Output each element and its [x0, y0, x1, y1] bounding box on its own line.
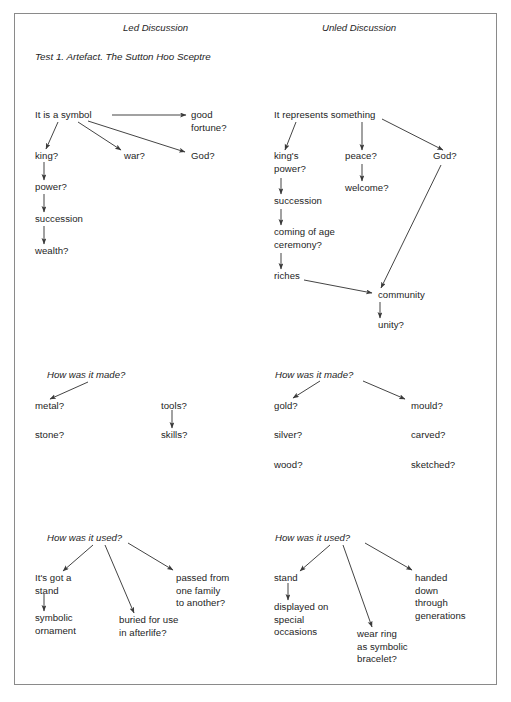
diagram-page: Led Discussion Unled Discussion Test 1. …: [0, 0, 511, 702]
node-power: power?: [35, 181, 67, 194]
node-skills: skills?: [161, 429, 187, 442]
node-king: king?: [35, 150, 58, 163]
node-handed-down-through-generations: handed down through generations: [415, 572, 466, 622]
node-kings-power: king's power?: [274, 150, 306, 175]
node-it-is-a-symbol: It is a symbol: [35, 109, 92, 122]
node-wear-ring-as-symbolic-bracelet: wear ring as symbolic bracelet?: [357, 628, 408, 666]
node-community: community: [378, 289, 425, 302]
column-header-led: Led Discussion: [123, 22, 188, 33]
node-mould: mould?: [411, 400, 443, 413]
node-it-represents-something: It represents something: [274, 109, 375, 122]
node-its-got-a-stand: It's got a stand: [35, 572, 71, 597]
node-succession-unled: succession: [274, 195, 322, 208]
node-wealth: wealth?: [35, 245, 68, 258]
node-unity: unity?: [378, 319, 404, 332]
node-displayed-on-special-occasions: displayed on special occasions: [274, 601, 328, 639]
node-riches: riches: [274, 270, 300, 283]
section-heading-used-led: How was it used?: [47, 532, 122, 543]
node-god-led: God?: [191, 150, 215, 163]
node-stand: stand: [274, 572, 298, 585]
node-metal: metal?: [35, 400, 64, 413]
node-coming-of-age-ceremony: coming of age ceremony?: [274, 226, 335, 251]
node-god-unled: God?: [433, 150, 457, 163]
node-gold: gold?: [274, 400, 298, 413]
node-sketched: sketched?: [411, 459, 455, 472]
node-symbolic-ornament: symbolic ornament: [35, 612, 76, 637]
node-buried-for-use-in-afterlife: buried for use in afterlife?: [119, 614, 178, 639]
section-heading-made-led: How was it made?: [47, 369, 125, 380]
node-tools: tools?: [161, 400, 187, 413]
node-war: war?: [124, 150, 145, 163]
node-wood: wood?: [274, 459, 303, 472]
section-heading-made-unled: How was it made?: [275, 369, 353, 380]
column-header-unled: Unled Discussion: [322, 22, 396, 33]
node-silver: silver?: [274, 429, 302, 442]
page-title: Test 1. Artefact. The Sutton Hoo Sceptre: [35, 51, 211, 62]
node-carved: carved?: [411, 429, 445, 442]
node-peace: peace?: [345, 150, 377, 163]
node-stone: stone?: [35, 429, 64, 442]
node-good-fortune: good fortune?: [191, 109, 227, 134]
node-passed-from-one-family-to-another: passed from one family to another?: [176, 572, 229, 610]
node-succession-led: succession: [35, 213, 83, 226]
node-welcome: welcome?: [345, 182, 389, 195]
section-heading-used-unled: How was it used?: [275, 532, 350, 543]
